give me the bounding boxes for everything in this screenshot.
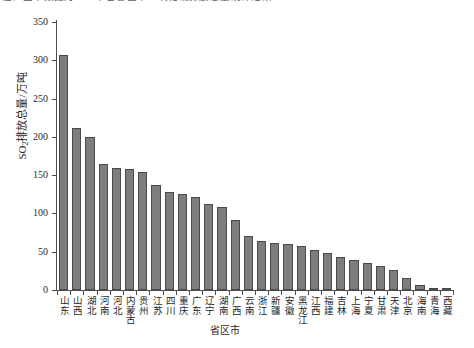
- bar: [257, 241, 266, 290]
- x-tick-mark: [242, 291, 243, 295]
- x-category-label: 安徽: [283, 296, 294, 315]
- x-category-label: 福建: [322, 296, 333, 315]
- bar: [165, 192, 174, 290]
- x-category-label: 江西: [309, 296, 320, 315]
- y-tick-mark: [52, 175, 57, 176]
- x-tick-mark: [136, 291, 137, 295]
- y-tick-mark: [52, 252, 57, 253]
- x-category-label: 广西: [230, 296, 241, 315]
- bar: [112, 168, 121, 290]
- x-tick-mark: [255, 291, 256, 295]
- y-tick-mark: [52, 137, 57, 138]
- x-category-label: 内蒙古: [124, 296, 135, 325]
- x-category-label: 江苏: [151, 296, 162, 315]
- x-category-label: 贵州: [137, 296, 148, 315]
- x-tick-mark: [347, 291, 348, 295]
- x-category-label: 湖北: [85, 296, 96, 315]
- bar: [178, 194, 187, 290]
- x-tick-mark: [202, 291, 203, 295]
- x-category-label: 天津: [388, 296, 399, 315]
- bar: [402, 278, 411, 290]
- x-category-label: 四川: [164, 296, 175, 315]
- x-category-label: 新疆: [269, 296, 280, 315]
- x-tick-mark: [361, 291, 362, 295]
- bar: [442, 288, 451, 290]
- x-category-label: 吉林: [335, 296, 346, 315]
- y-tick-label: 150: [33, 170, 48, 180]
- x-tick-mark: [57, 291, 58, 295]
- x-tick-mark: [321, 291, 322, 295]
- x-tick-mark: [268, 291, 269, 295]
- x-tick-mark: [163, 291, 164, 295]
- so2-emissions-bar-chart: SO2排放总量/万吨 050100150200250300350 山东山西湖北河…: [0, 0, 474, 348]
- y-tick-mark: [52, 22, 57, 23]
- bar: [323, 253, 332, 290]
- y-tick-label: 200: [33, 132, 48, 142]
- x-tick-mark: [400, 291, 401, 295]
- y-tick-label: 100: [33, 208, 48, 218]
- x-tick-mark: [295, 291, 296, 295]
- x-tick-mark: [281, 291, 282, 295]
- x-category-label: 宁夏: [362, 296, 373, 315]
- y-tick-mark: [52, 99, 57, 100]
- x-tick-mark: [83, 291, 84, 295]
- x-category-label: 青海: [428, 296, 439, 315]
- bar: [389, 270, 398, 290]
- x-tick-mark: [229, 291, 230, 295]
- y-tick-label: 50: [38, 247, 48, 257]
- bar: [283, 244, 292, 290]
- x-category-label: 海南: [415, 296, 426, 315]
- x-tick-mark: [374, 291, 375, 295]
- y-tick-mark: [52, 60, 57, 61]
- x-category-label: 西藏: [441, 296, 452, 315]
- x-tick-mark: [176, 291, 177, 295]
- bar: [349, 260, 358, 290]
- x-category-label: 北京: [401, 296, 412, 315]
- x-axis-title: 省区市: [210, 326, 240, 336]
- y-tick-label: 0: [43, 285, 48, 295]
- x-tick-mark: [215, 291, 216, 295]
- bar: [231, 220, 240, 290]
- x-tick-mark: [149, 291, 150, 295]
- x-tick-mark: [334, 291, 335, 295]
- x-tick-mark: [308, 291, 309, 295]
- bar: [125, 169, 134, 290]
- x-tick-mark: [189, 291, 190, 295]
- x-category-label: 山西: [71, 296, 82, 315]
- y-tick-mark: [52, 213, 57, 214]
- x-category-label: 辽宁: [203, 296, 214, 315]
- x-tick-mark: [453, 291, 454, 295]
- bar: [85, 137, 94, 290]
- y-axis-title: SO2排放总量/万吨: [17, 51, 29, 181]
- x-category-label: 山东: [58, 296, 69, 315]
- x-category-label: 黑龙江: [296, 296, 307, 325]
- x-tick-mark: [123, 291, 124, 295]
- bar: [191, 197, 200, 290]
- bar: [72, 128, 81, 290]
- x-tick-mark: [387, 291, 388, 295]
- x-tick-mark: [427, 291, 428, 295]
- x-category-label: 重庆: [177, 296, 188, 315]
- y-tick-label: 300: [33, 55, 48, 65]
- x-tick-mark: [413, 291, 414, 295]
- bar: [415, 285, 424, 290]
- x-category-label: 广东: [190, 296, 201, 315]
- x-tick-mark: [440, 291, 441, 295]
- bar: [270, 243, 279, 290]
- x-category-label: 湖南: [217, 296, 228, 315]
- x-category-label: 甘肃: [375, 296, 386, 315]
- x-category-label: 上海: [349, 296, 360, 315]
- bar: [151, 185, 160, 290]
- x-tick-mark: [110, 291, 111, 295]
- x-category-label: 河南: [98, 296, 109, 315]
- y-axis-title-prefix: SO: [16, 146, 28, 160]
- bar: [376, 266, 385, 290]
- bar: [244, 236, 253, 290]
- bar: [204, 204, 213, 290]
- bar: [138, 172, 147, 290]
- bar: [429, 288, 438, 290]
- bar: [99, 164, 108, 290]
- x-tick-mark: [97, 291, 98, 295]
- x-category-label: 云南: [243, 296, 254, 315]
- y-tick-label: 250: [33, 94, 48, 104]
